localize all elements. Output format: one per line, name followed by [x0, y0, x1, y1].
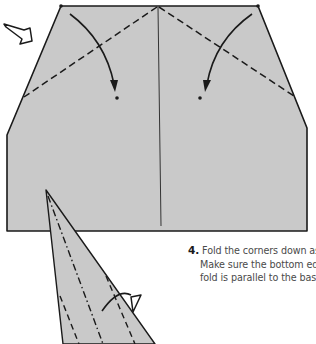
step-caption: 4. Fold the corners down as indicated. M… [188, 244, 316, 285]
step-text-line-2: Make sure the bottom edge of this [188, 258, 316, 272]
step-text-line-1: Fold the corners down as indicated. [202, 245, 316, 256]
hollow-arrow-icon [4, 24, 32, 44]
step-number: 4. [188, 244, 199, 256]
origami-diagram [0, 0, 316, 344]
step-text-line-3: fold is parallel to the base. [188, 271, 316, 285]
paper-shape [7, 6, 307, 231]
